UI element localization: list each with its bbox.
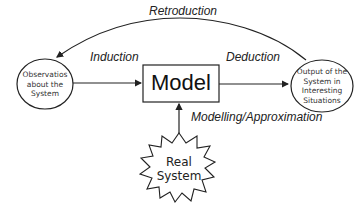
retroduction-label: Retroduction xyxy=(149,4,217,18)
observations-line-3: System xyxy=(20,89,70,99)
modelling-label: Modelling/Approximation xyxy=(191,110,322,124)
real-system-node-label: Real System xyxy=(150,155,208,183)
induction-label: Induction xyxy=(90,50,139,64)
output-node-label: Output of the System in Interesting Situ… xyxy=(294,67,350,105)
model-node-label: Model xyxy=(143,70,219,96)
output-line-4: Situations xyxy=(294,96,350,106)
real-system-line-1: Real xyxy=(150,155,208,169)
output-line-3: Interesting xyxy=(294,86,350,96)
output-line-2: System in xyxy=(294,77,350,87)
output-line-1: Output of the xyxy=(294,67,350,77)
real-system-line-2: System xyxy=(150,169,208,183)
deduction-label: Deduction xyxy=(226,50,280,64)
observations-node-label: Observatios about the System xyxy=(20,70,70,99)
observations-line-2: about the xyxy=(20,80,70,90)
observations-line-1: Observatios xyxy=(20,70,70,80)
